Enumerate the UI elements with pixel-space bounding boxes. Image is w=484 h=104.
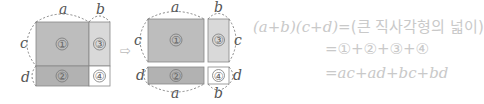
region-3-split-label: ③ <box>214 34 224 47</box>
equation-rhs-area: =(큰 직사각형의 넓이) <box>338 18 484 36</box>
label-d-left: d <box>136 67 145 83</box>
label-a-top: a <box>171 0 179 15</box>
combined-rectangle: ① ② ③ ④ a b c d <box>20 1 110 86</box>
region-3-label: ③ <box>95 38 105 51</box>
label-c-right: c <box>234 32 242 48</box>
label-c-left: c <box>134 32 142 48</box>
label-c: c <box>20 35 28 51</box>
equation-lhs: (a+b)(c+d) <box>253 18 338 36</box>
label-a-bottom: a <box>171 85 179 101</box>
label-b-bottom: b <box>214 85 223 101</box>
label-b: b <box>96 1 105 17</box>
region-1-label: ① <box>57 38 67 51</box>
label-b-top: b <box>214 0 223 15</box>
region-2-label: ② <box>57 70 67 83</box>
equation-line-1: (a+b)(c+d)=(큰 직사각형의 넓이) <box>253 15 484 36</box>
equation-line-3: =ac+ad+bc+bd <box>325 64 448 82</box>
equation-line-2: =①+②+③+④ <box>325 40 429 58</box>
region-4-split-label: ④ <box>214 70 224 83</box>
label-d: d <box>21 69 30 85</box>
label-d-right: d <box>233 67 242 83</box>
region-1-split-label: ① <box>171 34 181 47</box>
label-a: a <box>59 1 67 17</box>
region-2-split-label: ② <box>171 70 181 83</box>
region-4-label: ④ <box>95 70 105 83</box>
arrow-right-icon: ⇨ <box>120 43 131 58</box>
separated-rectangles: ① ② ③ ④ a b c c d d a b <box>134 0 242 101</box>
